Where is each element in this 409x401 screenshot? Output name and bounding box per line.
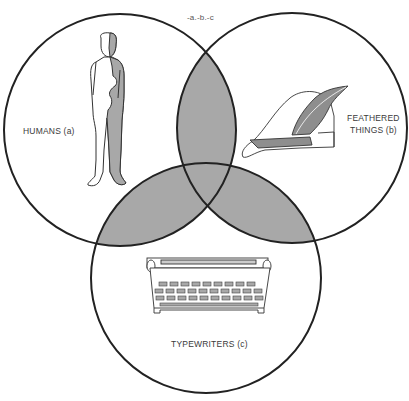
human-figure-icon [88, 33, 126, 186]
set-a-label: HUMANS (a) [23, 126, 75, 137]
set-c-label: TYPEWRITERS (c) [171, 339, 248, 350]
typewriter-icon [147, 258, 271, 313]
outside-label: -a.-b.-c [187, 12, 214, 23]
set-b-label-line2: THINGS (b) [350, 125, 397, 136]
set-b-label-line1: FEATHERED [347, 113, 400, 124]
feathered-hat-icon [242, 86, 348, 157]
